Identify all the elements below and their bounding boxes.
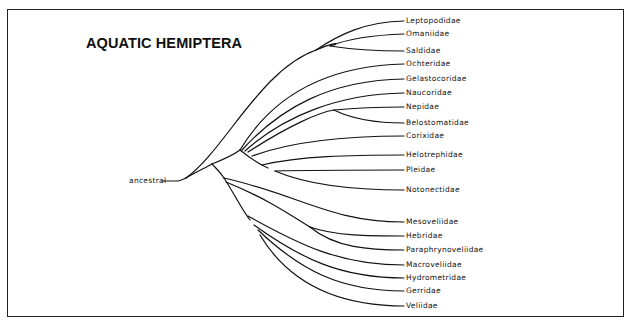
taxon-label: Omaniidae bbox=[406, 29, 449, 38]
taxon-label: Belostomatidae bbox=[406, 118, 469, 127]
taxon-label: Corixidae bbox=[406, 131, 444, 140]
taxon-label: Hydrometridae bbox=[406, 273, 466, 282]
branch-to-gerromorpha bbox=[212, 164, 224, 178]
branch-gerro-lower-stem bbox=[224, 178, 250, 220]
branch-macroveliidae bbox=[248, 216, 404, 265]
taxon-label: Gelastocoridae bbox=[406, 74, 467, 83]
branch-hebridae bbox=[310, 227, 404, 236]
branch-gelastocoridae bbox=[242, 79, 404, 150]
taxon-label: Naucoridae bbox=[406, 88, 452, 97]
taxon-label: Macroveliidae bbox=[406, 260, 462, 269]
branch-helotrephidae bbox=[262, 155, 404, 165]
taxon-label: Pleidae bbox=[406, 165, 435, 174]
taxon-label: Mesoveliidae bbox=[406, 217, 458, 226]
branch-corixidae bbox=[252, 136, 404, 156]
branch-nepidae bbox=[334, 107, 404, 110]
branch-to-notonectoidea bbox=[240, 150, 268, 168]
taxon-label: Hebridae bbox=[406, 231, 443, 240]
branch-hydrometridae bbox=[254, 225, 404, 278]
taxon-label: Paraphrynoveliidae bbox=[406, 245, 484, 254]
taxon-label: Leptopodidae bbox=[406, 16, 461, 25]
taxon-label: Helotrephidae bbox=[406, 150, 463, 159]
phylogenetic-tree bbox=[0, 0, 634, 326]
taxon-label: Veliidae bbox=[406, 301, 438, 310]
branch-pleidae bbox=[275, 170, 404, 171]
taxon-label: Ochteridae bbox=[406, 59, 450, 68]
branch-to-nepomorpha bbox=[212, 150, 240, 164]
branch-root bbox=[162, 178, 186, 181]
taxon-label: Saldidae bbox=[406, 46, 441, 55]
branch-notonectidae bbox=[275, 171, 404, 190]
branch-saldidae bbox=[330, 46, 404, 51]
branch-belostomatidae bbox=[334, 110, 404, 123]
taxon-label: Gerridae bbox=[406, 286, 441, 295]
taxon-label: Nepidae bbox=[406, 102, 439, 111]
branch-mesoveliidae bbox=[224, 178, 404, 222]
taxon-label: Notonectidae bbox=[406, 185, 460, 194]
branch-veliidae bbox=[260, 235, 404, 306]
branch-to-hebrid-paraphry bbox=[226, 182, 310, 227]
